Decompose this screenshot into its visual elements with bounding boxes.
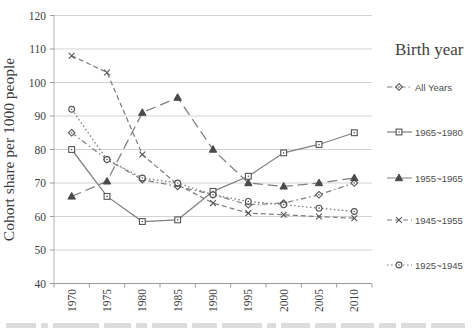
y-tick-label: 90 [35, 110, 47, 122]
legend-marker-sample [386, 173, 413, 183]
legend-item-label: 1945~1955 [415, 215, 463, 226]
legend-item-label: 1925~1945 [415, 260, 463, 271]
legend-item-label: 1955~1965 [415, 173, 463, 184]
y-axis-title: Cohort share per 1000 people [0, 58, 17, 241]
y-tick-label: 70 [35, 177, 47, 189]
y-tick-label: 60 [35, 211, 47, 223]
series-markers-1965-1980 [69, 130, 357, 225]
legend-item-1955-1965: 1955~1965 [386, 172, 463, 184]
y-tick-label: 110 [29, 43, 46, 55]
x-tick-label: 1985 [172, 289, 184, 312]
legend-marker-sample [386, 215, 413, 225]
legend-title: Birth year [395, 40, 473, 60]
legend: Birth year All Years1965~19801955~196519… [386, 40, 473, 290]
legend-item-1965-1980: 1965~1980 [386, 126, 463, 138]
x-tick-label: 1995 [242, 289, 254, 312]
legend-item-label: All Years [415, 82, 452, 93]
x-tick-label: 1975 [101, 289, 113, 312]
legend-item-label: 1965~1980 [415, 127, 463, 138]
y-tick-label: 40 [35, 278, 47, 290]
cropped-caption-fragment [6, 320, 471, 328]
legend-marker-sample [386, 260, 413, 270]
legend-marker-sample [386, 127, 413, 137]
legend-marker-sample [386, 82, 413, 92]
y-tick-label: 50 [35, 244, 47, 256]
x-tick-label: 1970 [66, 289, 78, 312]
chart-figure: 4050607080901001101201970197519801985199… [0, 0, 473, 328]
y-tick-label: 100 [29, 77, 47, 89]
x-tick-label: 2000 [278, 289, 290, 312]
x-tick-label: 2005 [313, 289, 325, 312]
legend-item-all-years: All Years [386, 81, 452, 93]
x-tick-label: 2010 [348, 289, 360, 312]
x-tick-label: 1980 [136, 289, 148, 312]
y-tick-label: 120 [29, 10, 47, 22]
y-tick-label: 80 [35, 144, 47, 156]
legend-item-1925-1945: 1925~1945 [386, 259, 463, 271]
legend-item-1945-1955: 1945~1955 [386, 214, 463, 226]
x-tick-label: 1990 [207, 289, 219, 312]
